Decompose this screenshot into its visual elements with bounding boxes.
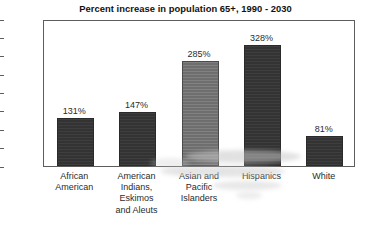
y-axis: 400350300250200150100500	[0, 0, 43, 229]
x-axis-category-line: Hispanics	[230, 171, 292, 182]
x-axis-category-label: Asian andPacificIslanders	[168, 171, 230, 205]
x-axis-category-label: Hispanics	[230, 171, 292, 182]
y-axis-tick-mark	[0, 20, 4, 21]
x-axis-category-line: Indians,	[105, 182, 167, 193]
y-axis-tick-mark	[0, 111, 4, 112]
plot-area	[43, 20, 355, 167]
bar-value-label: 328%	[231, 33, 291, 43]
x-axis-category-line: White	[293, 171, 355, 182]
bar-value-label: 285%	[169, 49, 229, 59]
x-axis-category-line: American	[43, 182, 105, 193]
x-axis-category-line: and Aleuts	[105, 205, 167, 216]
bar	[119, 112, 156, 166]
bar	[57, 118, 94, 166]
bar-value-label: 147%	[107, 100, 167, 110]
x-axis-category-line: African	[43, 171, 105, 182]
bar	[244, 45, 281, 166]
x-axis-category-label: AfricanAmerican	[43, 171, 105, 193]
x-axis-category-line: Asian and	[168, 171, 230, 182]
bar-value-label: 81%	[294, 124, 354, 134]
y-axis-tick-mark	[0, 75, 4, 76]
chart-title: Percent increase in population 65+, 1990…	[0, 3, 371, 14]
x-axis-category-label: AmericanIndians,Eskimosand Aleuts	[105, 171, 167, 216]
bar-chart: Percent increase in population 65+, 1990…	[0, 0, 371, 229]
bar	[306, 136, 343, 166]
y-axis-tick-mark	[0, 93, 4, 94]
y-axis-tick-mark	[0, 148, 4, 149]
bar	[182, 61, 219, 166]
x-axis-category-line: American	[105, 171, 167, 182]
y-axis-tick-mark	[0, 56, 4, 57]
y-axis-tick-mark	[0, 130, 4, 131]
x-axis-category-label: White	[293, 171, 355, 182]
scan-artifact-smudge	[236, 192, 262, 199]
bar-value-label: 131%	[44, 106, 104, 116]
y-axis-tick-mark	[0, 38, 4, 39]
y-axis-tick-mark	[0, 167, 4, 168]
x-axis-category-line: Pacific	[168, 182, 230, 193]
x-axis-category-line: Islanders	[168, 193, 230, 204]
x-axis-category-line: Eskimos	[105, 193, 167, 204]
